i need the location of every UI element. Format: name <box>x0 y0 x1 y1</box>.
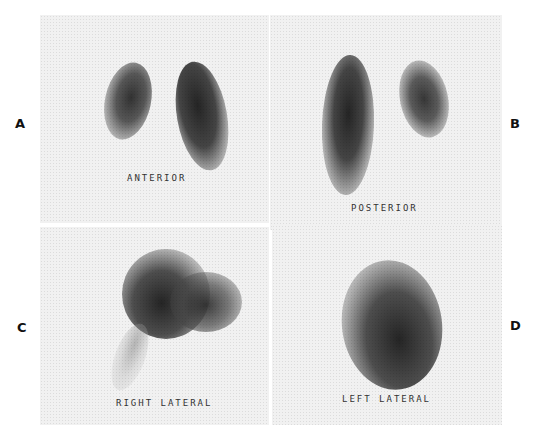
panel-letter-a: A <box>15 116 25 131</box>
right-lung-uptake <box>392 56 455 142</box>
left-lung-uptake <box>168 57 236 174</box>
right-lung-uptake <box>97 58 158 144</box>
view-label-right-lateral: RIGHT LATERAL <box>116 398 212 408</box>
view-label-left-lateral: LEFT LATERAL <box>342 394 431 404</box>
lung-uptake <box>333 254 450 397</box>
panel-left-lateral: LEFT LATERAL <box>272 225 502 425</box>
left-lung-uptake <box>320 54 377 196</box>
view-label-anterior: ANTERIOR <box>127 173 186 183</box>
panel-posterior: POSTERIOR <box>270 15 502 230</box>
view-label-posterior: POSTERIOR <box>351 203 418 213</box>
panel-letter-d: D <box>510 318 521 333</box>
scintigraphy-noise <box>270 15 502 230</box>
scintigraphy-noise <box>40 15 269 223</box>
panel-letter-c: C <box>17 320 27 335</box>
lung-uptake-posterior <box>170 272 242 332</box>
panel-letter-b: B <box>510 116 520 131</box>
panel-right-lateral: RIGHT LATERAL <box>40 227 269 425</box>
panel-anterior: ANTERIOR <box>40 15 269 223</box>
